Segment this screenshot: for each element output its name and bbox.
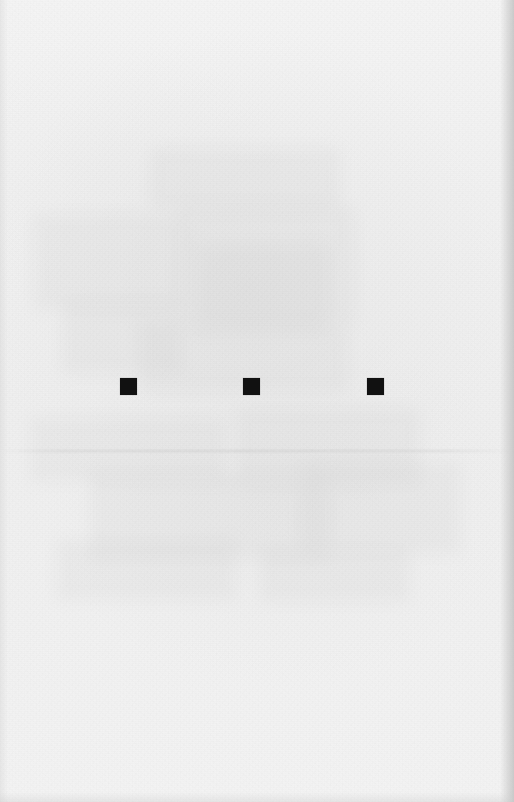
ghost-block-6 [30,418,226,482]
ghost-block-3 [196,246,328,332]
ghost-block-10 [56,540,236,600]
ghost-block-11 [260,548,410,602]
right-edge-shadow [500,0,514,802]
bleed-through-layer [0,0,514,802]
tonal-seam [0,450,514,452]
square-marker-3[interactable] [367,378,384,395]
ghost-block-8 [90,472,330,560]
paper-grain-texture [0,0,514,802]
scanned-page [0,0,514,802]
square-marker-1[interactable] [120,378,137,395]
bottom-edge-shadow [0,792,514,802]
square-marker-2[interactable] [243,378,260,395]
ghost-block-1 [34,214,184,310]
ghost-block-7 [236,408,420,486]
ghost-block-4 [62,300,180,374]
ghost-block-12 [150,148,340,210]
ghost-block-9 [300,462,460,554]
left-edge-shadow [0,0,8,802]
ghost-block-2 [178,206,354,324]
square-marker-row [0,0,514,802]
